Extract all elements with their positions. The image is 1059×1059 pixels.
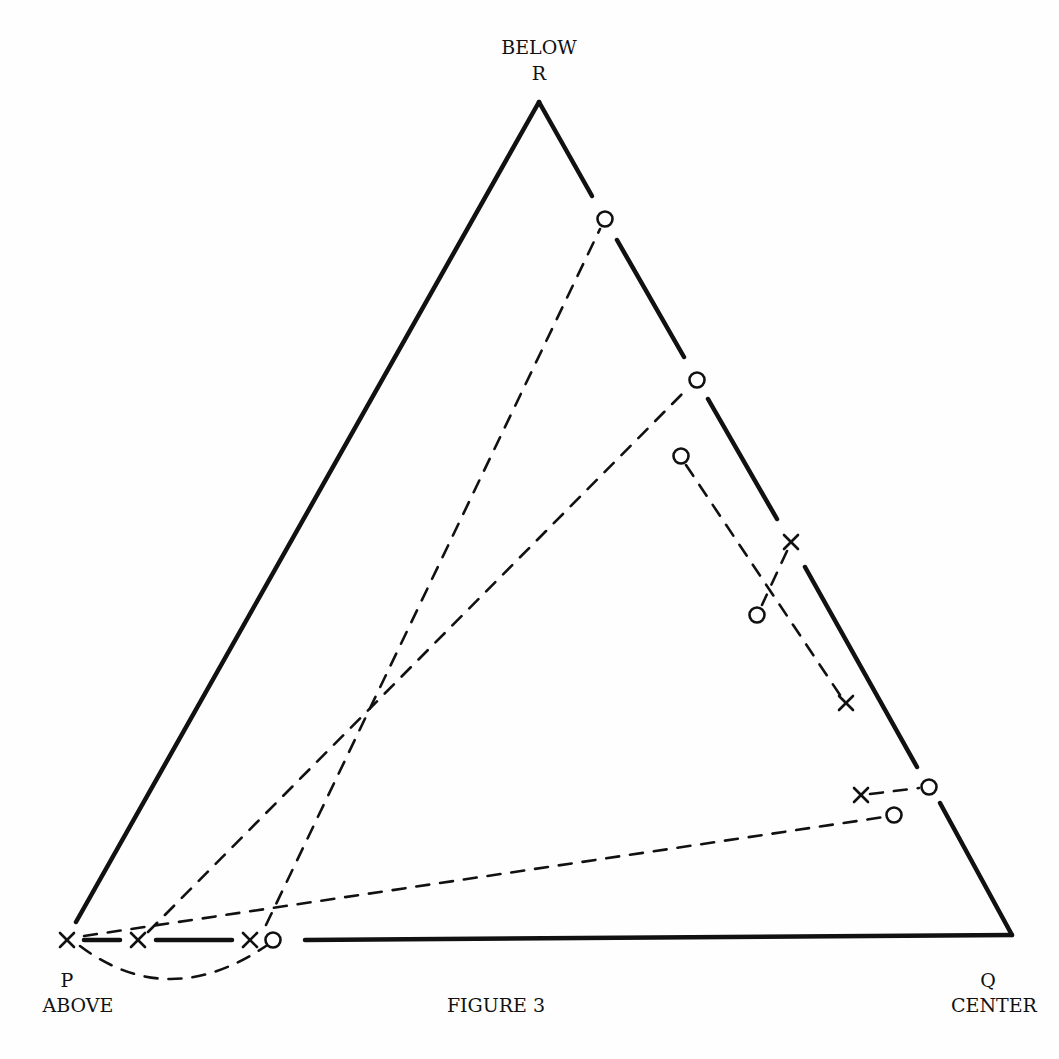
- cross-marker-icon: [131, 933, 145, 947]
- dashed-line: [686, 465, 840, 695]
- vertex-q-name-label: CENTER: [951, 994, 1038, 1016]
- vertex-q-letter-label: Q: [980, 969, 996, 991]
- data-markers: [60, 212, 937, 948]
- dashed-line: [762, 551, 787, 605]
- circle-marker-icon: [690, 373, 705, 388]
- right-edge-segment: [539, 102, 592, 196]
- vertex-r-name-label: BELOW: [501, 36, 577, 58]
- dashed-connector-lines: [80, 229, 919, 979]
- right-edge-segment: [617, 240, 684, 357]
- triangle-edges: [76, 102, 1012, 940]
- left-edge-segment: [76, 102, 539, 922]
- vertex-p-letter-label: P: [61, 969, 74, 991]
- circle-marker-icon: [922, 780, 937, 795]
- ternary-diagram-figure: BELOW R P ABOVE Q CENTER FIGURE 3: [0, 0, 1059, 1059]
- vertex-r-letter-label: R: [532, 62, 547, 84]
- right-edge-segment: [940, 803, 1012, 935]
- vertex-p-name-label: ABOVE: [42, 994, 114, 1016]
- cross-marker-icon: [839, 696, 853, 710]
- bottom-edge-segment: [305, 935, 1012, 940]
- dashed-curve: [80, 946, 266, 979]
- cross-marker-icon: [784, 535, 798, 549]
- cross-marker-icon: [854, 788, 868, 802]
- right-edge-segment: [708, 399, 777, 519]
- dashed-line: [148, 387, 689, 932]
- cross-marker-icon: [243, 933, 257, 947]
- circle-marker-icon: [674, 449, 689, 464]
- circle-marker-icon: [598, 212, 613, 227]
- circle-marker-icon: [266, 933, 281, 948]
- circle-marker-icon: [887, 808, 902, 823]
- ternary-diagram-canvas: BELOW R P ABOVE Q CENTER FIGURE 3: [0, 0, 1059, 1059]
- figure-caption: FIGURE 3: [447, 994, 545, 1016]
- dashed-line: [266, 229, 600, 925]
- dashed-line: [870, 788, 919, 794]
- cross-marker-icon: [60, 933, 74, 947]
- circle-marker-icon: [750, 608, 765, 623]
